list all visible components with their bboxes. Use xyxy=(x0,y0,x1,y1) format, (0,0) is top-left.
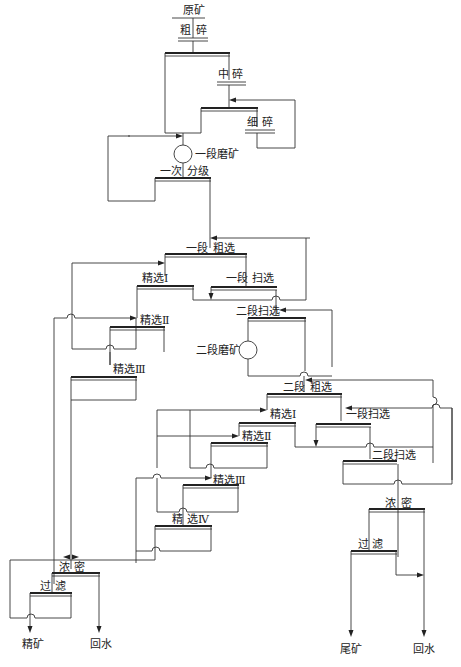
filter-right-label-1: 过 xyxy=(358,538,369,551)
medium-crush-label-1: 中 xyxy=(218,68,229,81)
stage1-scavenger-label-1: 一段 xyxy=(226,271,248,285)
stage2-flotation: 二段 粗选 精选Ⅰ 一段扫选 二段扫选 精选Ⅱ xyxy=(10,378,452,564)
stage2-rougher-label-1: 二段 xyxy=(283,380,305,394)
cleaner1-a-label: 精选Ⅰ xyxy=(142,272,168,285)
raw-ore-label: 原矿 xyxy=(183,4,205,17)
product-water-right-label: 回水 xyxy=(413,643,435,656)
stage2-grinding-label: 二段磨矿 xyxy=(196,343,240,357)
stage2-scavenger-a-label: 二段扫选 xyxy=(236,304,280,318)
filter-right-label-2: 滤 xyxy=(372,538,383,551)
left-dewatering: 浓 密 过 滤 精矿 回水 xyxy=(10,548,112,651)
product-tailings-label: 尾矿 xyxy=(340,643,362,656)
coarse-crush-label-1: 粗 xyxy=(180,24,191,37)
medium-crush-label-2: 碎 xyxy=(232,67,243,81)
stage1-grinding-label: 一段磨矿 xyxy=(195,147,239,161)
filter-left-label-2: 滤 xyxy=(55,580,66,593)
stage1-scavenger-label-2: 扫选 xyxy=(252,272,274,285)
grinding-section: 一段磨矿 一次 分级 xyxy=(108,134,239,249)
crushing-section: 原矿 粗 碎 中 碎 细 碎 xyxy=(165,4,295,148)
flowsheet-diagram: 原矿 粗 碎 中 碎 细 碎 xyxy=(0,0,461,667)
cleaner4-b-label-1: 精 xyxy=(172,513,183,526)
primary-classify-label-1: 一次 xyxy=(160,164,182,178)
stage1-grinding-mill xyxy=(174,145,192,163)
cleaner2-a-label: 精选Ⅱ xyxy=(140,314,169,327)
cleaner2-b-label: 精选Ⅱ xyxy=(242,430,271,443)
cleaner3-a-label: 精选Ⅲ xyxy=(113,363,146,376)
stage1-scavenger-b-label: 一段扫选 xyxy=(346,407,390,421)
filter-left-label-1: 过 xyxy=(40,580,51,593)
coarse-crush-label-2: 碎 xyxy=(196,23,207,37)
cleaner4-b-label-2: 选Ⅳ xyxy=(187,513,210,526)
right-dewatering: 浓 密 过 滤 尾矿 回水 xyxy=(340,496,435,656)
stage2-rougher-label-2: 粗选 xyxy=(310,381,332,394)
product-water-left-label: 回水 xyxy=(90,638,112,651)
fine-crush-label-2: 碎 xyxy=(262,115,273,129)
primary-classify-label-2: 分级 xyxy=(187,165,209,178)
cleaner1-b-label: 精选Ⅰ xyxy=(270,408,296,421)
fine-crush-label-1: 细 xyxy=(247,116,258,129)
stage2-grinding-mill xyxy=(239,341,257,359)
product-concentrate-label: 精矿 xyxy=(22,638,44,651)
